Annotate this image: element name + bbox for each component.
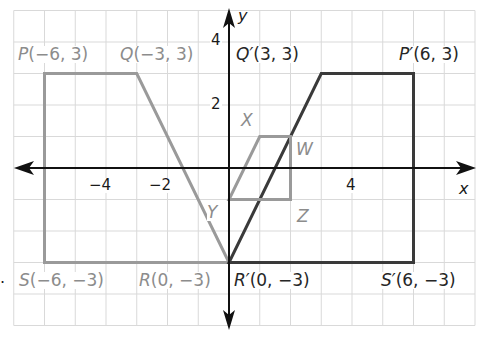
label-R: R(0, −3) [138,272,212,289]
label-S-name: S [19,270,30,290]
label-Rp-name: R′ [234,270,250,290]
tick-x-4: 4 [345,178,357,193]
label-S: S(−6, −3) [18,272,105,289]
label-Sp-coords: (6, −3) [396,270,456,290]
label-Pp-name: P′ [399,44,413,64]
tick-y-4: 4 [210,33,222,48]
tick-y-2: 2 [210,97,222,112]
label-Z: Z [297,208,309,225]
label-P-prime: P′(6, 3) [398,46,460,63]
label-Q-prime: Q′(3, 3) [235,46,300,63]
bullet-mark: . [0,268,5,287]
label-P-coords: (−6, 3) [28,44,88,64]
label-Q-coords: (−3, 3) [133,44,193,64]
y-axis-label: y [238,8,247,24]
label-W: W [296,141,313,158]
label-Qp-coords: (3, 3) [253,44,299,64]
label-R-name: R [139,270,151,290]
label-Q: Q(−3, 3) [119,46,194,63]
label-Pp-coords: (6, 3) [413,44,459,64]
label-P: P(−6, 3) [17,46,89,63]
label-Qp-name: Q′ [236,44,253,64]
label-P-name: P [18,44,28,64]
x-axis-label: x [459,181,468,197]
label-Rp-coords: (0, −3) [250,270,310,290]
tick-x-neg2: −2 [148,178,172,193]
label-R-coords: (0, −3) [151,270,211,290]
tick-x-neg4: −4 [88,178,112,193]
label-R-prime: R′(0, −3) [233,272,311,289]
label-Y: Y [207,204,217,221]
label-Q-name: Q [120,44,133,64]
label-X: X [241,112,253,129]
label-Sp-name: S′ [381,270,396,290]
label-S-prime: S′(6, −3) [380,272,457,289]
label-S-coords: (−6, −3) [30,270,104,290]
